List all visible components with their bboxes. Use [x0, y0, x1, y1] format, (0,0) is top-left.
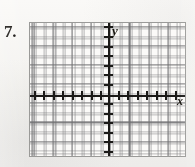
x-tick — [118, 91, 120, 100]
coordinate-grid-plot: y x — [29, 22, 186, 157]
x-tick — [81, 91, 83, 100]
x-tick — [100, 91, 102, 100]
y-axis-line — [108, 23, 110, 156]
y-tick — [104, 141, 113, 143]
x-tick — [165, 91, 167, 100]
y-tick — [104, 46, 113, 48]
x-tick — [53, 91, 55, 100]
x-tick — [62, 91, 64, 100]
y-tick — [104, 113, 113, 115]
y-axis-label: y — [112, 24, 118, 37]
x-tick — [72, 91, 74, 100]
x-axis-label: x — [177, 95, 183, 107]
x-tick — [146, 91, 148, 100]
y-tick — [104, 55, 113, 57]
y-tick — [104, 151, 113, 153]
worksheet-problem-figure: 7. — [0, 0, 195, 167]
x-tick — [43, 91, 45, 100]
x-tick — [156, 91, 158, 100]
x-tick — [137, 91, 139, 100]
y-tick — [104, 132, 113, 134]
x-tick — [91, 91, 93, 100]
x-tick — [127, 91, 129, 100]
y-tick — [104, 122, 113, 124]
y-tick — [104, 65, 113, 67]
y-tick — [104, 84, 113, 86]
y-tick — [104, 74, 113, 76]
x-tick — [34, 91, 36, 100]
y-tick — [104, 103, 113, 105]
problem-number-label: 7. — [4, 22, 16, 42]
